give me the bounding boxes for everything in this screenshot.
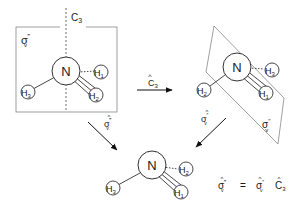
right-molecule: σ″v N H3 H1 H2: [197, 26, 284, 144]
h2-atom: H2: [179, 162, 193, 176]
h3-atom: H3: [106, 181, 120, 195]
h1-atom: H1: [174, 185, 188, 199]
nh3-symmetry-diagram: C3 σ‴v N H1 H2 H3 ^ C3 σ″v: [0, 0, 304, 213]
h2-atom: H2: [89, 88, 103, 102]
c3-arrow-label: C3: [148, 78, 159, 89]
symmetry-equation: ^ σ‴v = ^ σ″v ^ C3: [218, 176, 286, 193]
sigma-v-double-label: σ″v: [262, 118, 271, 133]
n-label: N: [232, 60, 241, 75]
sigma-v-double-arrow: ^ σ″v: [196, 109, 226, 147]
left-molecule: C3 σ‴v N H1 H2 H3: [16, 8, 117, 112]
n-label: N: [61, 64, 70, 79]
c3-axis-label: C3: [71, 12, 82, 24]
sigma-v-triple-arrow: ^ σ‴v: [88, 114, 117, 150]
c3-arrow: ^ C3: [137, 73, 172, 90]
bottom-molecule: N H2 H1 H3: [106, 151, 193, 199]
sigma-v-triple-label: σ‴v: [21, 33, 31, 48]
sigma-v-double-arrow-label: σ″v: [201, 112, 209, 126]
equation-lhs: σ‴v: [218, 179, 226, 193]
h3-atom: H3: [21, 85, 35, 99]
sigma-v-triple-arrow-label: σ‴v: [104, 117, 112, 131]
n-label: N: [147, 158, 156, 173]
equation-rhs-sigma: σ″v: [256, 179, 264, 193]
h1-atom: H1: [94, 65, 108, 79]
h3-atom: H3: [265, 63, 279, 77]
h1-atom: H1: [259, 86, 273, 100]
h2-atom: H2: [197, 83, 211, 97]
equation-rhs-c3: C3: [275, 180, 286, 192]
equation-equals: =: [240, 180, 246, 191]
